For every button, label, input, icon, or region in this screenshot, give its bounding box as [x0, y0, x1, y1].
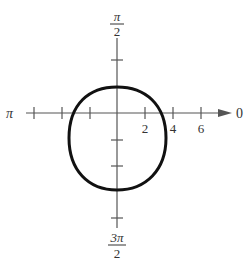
radial-tick-label-4: 4: [170, 121, 177, 136]
arrow-head-icon: [218, 109, 232, 117]
polar-axis-horizontal: [26, 107, 224, 119]
angle-label-0: 0: [236, 106, 243, 121]
angle-label-pi-over-2-numerator: π: [114, 9, 121, 24]
angle-label-3pi-over-2-numerator: 3π: [109, 230, 124, 245]
angle-label-pi-over-2-denominator: 2: [114, 24, 121, 39]
angle-label-3pi-over-2-denominator: 2: [114, 246, 121, 261]
radial-tick-label-2: 2: [142, 121, 149, 136]
polar-axis-vertical: [111, 38, 123, 228]
polar-graph: 0 π π 2 3π 2 2 4 6: [0, 0, 248, 261]
angle-label-pi: π: [6, 106, 14, 121]
radial-tick-label-6: 6: [198, 121, 205, 136]
